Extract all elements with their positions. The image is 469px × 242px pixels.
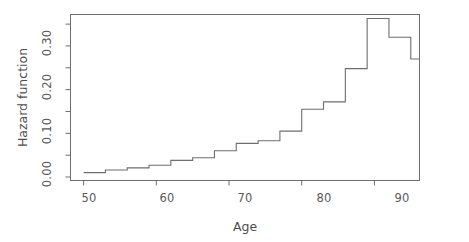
y-tick-label-1: 0.10: [40, 114, 54, 148]
x-tick-label-2: 70: [236, 191, 254, 205]
x-tick-label-3: 80: [315, 191, 333, 205]
hazard-step-curve: [84, 18, 420, 172]
x-axis-ticks: [84, 181, 375, 186]
x-tick-label-4: 90: [393, 191, 411, 205]
plot-canvas: [0, 0, 469, 242]
x-tick-label-1: 60: [158, 191, 176, 205]
y-axis-ticks: [66, 24, 71, 177]
y-axis-title: Hazard function: [15, 38, 30, 158]
x-axis-title: Age: [215, 219, 275, 234]
y-tick-label-0: 0.00: [40, 157, 54, 191]
hazard-function-figure: 0.00 0.10 0.20 0.30 50 60 70 80 90 Hazar…: [0, 0, 469, 242]
y-tick-label-2: 0.20: [40, 70, 54, 104]
y-tick-label-3: 0.30: [40, 26, 54, 60]
x-tick-label-0: 50: [80, 191, 98, 205]
